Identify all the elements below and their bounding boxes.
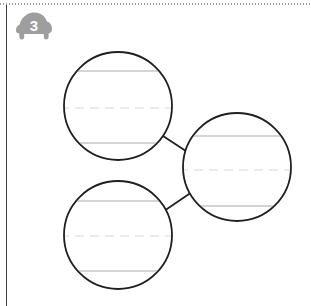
connector-bottom-left-to-right [164, 192, 192, 211]
circle-right[interactable] [179, 113, 295, 221]
circles-diagram [0, 0, 311, 306]
circle-bottom-left[interactable] [60, 181, 176, 289]
circle-top-left[interactable] [60, 52, 176, 160]
worksheet-page: 3 [0, 0, 311, 306]
